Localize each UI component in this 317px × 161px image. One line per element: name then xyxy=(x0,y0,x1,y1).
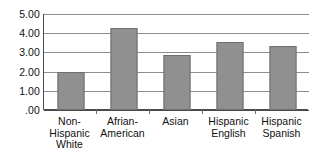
bar-slot xyxy=(97,14,150,110)
x-category-label-line: Hispanic xyxy=(249,116,314,128)
bar-slot xyxy=(256,14,309,110)
x-category-label-line: White xyxy=(37,139,102,151)
bars-group xyxy=(44,14,309,110)
y-tick-label: 5.00 xyxy=(2,9,40,19)
x-category-label-line: Spanish xyxy=(249,128,314,140)
bar xyxy=(110,28,137,110)
bar xyxy=(57,72,84,110)
x-category-label: HispanicSpanish xyxy=(249,116,314,139)
y-tick-label: 2.00 xyxy=(2,67,40,77)
x-axis-labels: Non-HispanicWhiteAfrian-AmericanAsianHis… xyxy=(43,116,308,161)
y-tick-label: 1.00 xyxy=(2,86,40,96)
x-tick xyxy=(149,110,150,114)
x-axis-ticks xyxy=(43,110,308,114)
bar-slot xyxy=(150,14,203,110)
bar xyxy=(216,42,243,110)
x-tick xyxy=(255,110,256,114)
y-tick-label: .00 xyxy=(2,105,40,115)
x-tick xyxy=(96,110,97,114)
x-tick xyxy=(202,110,203,114)
y-axis: .001.002.003.004.005.00 xyxy=(0,0,40,161)
y-tick-label: 4.00 xyxy=(2,28,40,38)
bar-slot xyxy=(203,14,256,110)
plot-area xyxy=(43,14,308,110)
bar xyxy=(163,55,190,110)
bar-chart: .001.002.003.004.005.00 Non-HispanicWhit… xyxy=(0,0,317,161)
y-tick-label: 3.00 xyxy=(2,47,40,57)
x-category-label-line: American xyxy=(90,128,155,140)
bar-slot xyxy=(44,14,97,110)
bar xyxy=(269,46,296,110)
